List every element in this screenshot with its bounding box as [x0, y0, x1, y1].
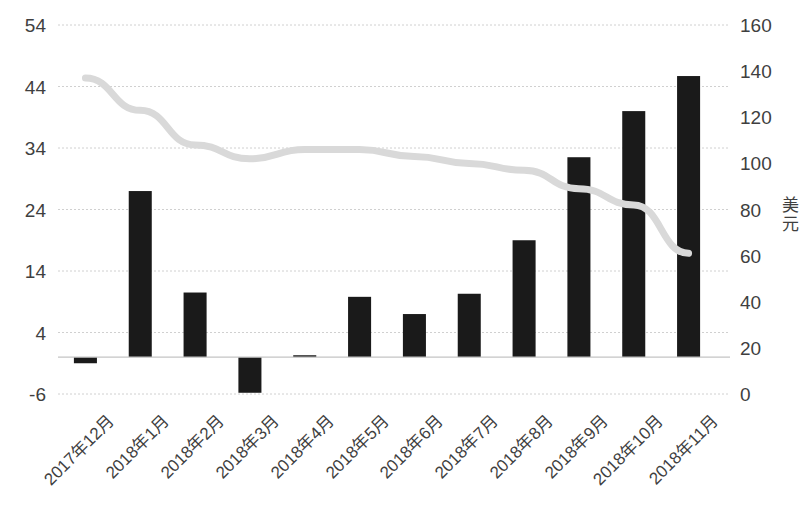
bar [74, 357, 97, 363]
bar [622, 111, 645, 357]
left-axis-tick-labels: 54443424144-6 [25, 15, 47, 405]
trend-line [85, 78, 688, 253]
bar [403, 314, 426, 357]
right-axis-tick-label: 40 [740, 292, 761, 313]
bar [677, 76, 700, 357]
left-axis-tick-label: 14 [25, 261, 47, 282]
right-axis-tick-label: 120 [740, 107, 772, 128]
bar [348, 297, 371, 357]
right-axis-tick-label: 20 [740, 338, 761, 359]
bar [184, 293, 207, 358]
bar [513, 240, 536, 357]
left-axis-tick-label: 34 [25, 138, 47, 159]
right-axis-tick-label: 60 [740, 246, 761, 267]
right-axis-tick-label: 160 [740, 15, 772, 36]
right-axis-tick-label: 100 [740, 153, 772, 174]
left-axis-tick-label: 24 [25, 200, 47, 221]
right-axis-tick-label: 0 [740, 384, 751, 405]
right-axis-tick-label: 140 [740, 61, 772, 82]
right-axis-tick-labels: 160140120100806040200 [740, 15, 772, 405]
right-axis-unit-label: 美元 [779, 196, 801, 234]
right-axis-tick-label: 80 [740, 200, 761, 221]
chart-container: 54443424144-6 160140120100806040200 美元 2… [0, 0, 807, 514]
left-axis-tick-label: -6 [29, 384, 46, 405]
left-axis-tick-label: 4 [35, 323, 46, 344]
left-axis-tick-label: 44 [25, 77, 47, 98]
chart-canvas: 54443424144-6 160140120100806040200 [0, 0, 807, 514]
line-series-group [85, 78, 688, 253]
bar [238, 357, 261, 393]
bar [458, 294, 481, 357]
left-axis-tick-label: 54 [25, 15, 47, 36]
bar [129, 191, 152, 357]
